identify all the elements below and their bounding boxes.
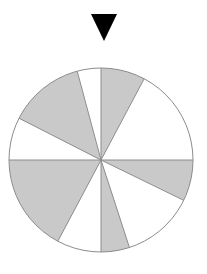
spinner-canvas — [0, 0, 207, 274]
wheel-group[interactable] — [9, 68, 193, 252]
spinner-figure — [0, 0, 207, 274]
triangle-down-icon — [91, 14, 117, 41]
